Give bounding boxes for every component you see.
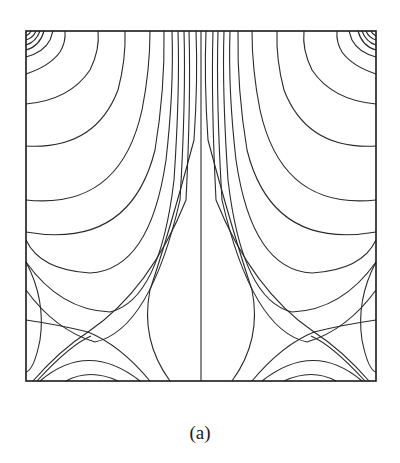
contour-plot	[0, 0, 400, 400]
left-half-contours	[26, 31, 197, 381]
right-half-contours	[205, 31, 376, 381]
figure-caption: (a)	[0, 422, 400, 444]
contour-figure	[0, 0, 400, 400]
